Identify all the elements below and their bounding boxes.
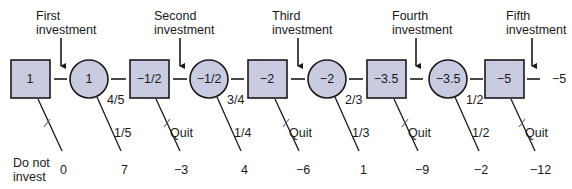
decision-node: −3.5 [367,60,406,98]
svg-text:investment: investment [392,23,453,37]
svg-text:invest: invest [13,170,46,184]
svg-text:−1/2: −1/2 [137,72,162,86]
decision-node: 1 [11,60,50,98]
svg-text:Third: Third [272,9,301,23]
svg-text:−2: −2 [320,72,334,86]
decision-branch-labels: Do not invest Quit Quit Quit Quit [13,126,548,184]
svg-text:1/3: 1/3 [352,126,369,140]
svg-text:0: 0 [60,163,67,177]
decision-tree-diagram: First investment Second investment Third… [0,0,572,189]
chance-branches [97,97,479,151]
svg-text:investment: investment [36,23,97,37]
svg-text:−2: −2 [260,72,274,86]
svg-text:investment: investment [272,23,333,37]
svg-text:1: 1 [360,163,367,177]
svg-text:2/3: 2/3 [345,93,362,107]
svg-text:Do not: Do not [13,156,50,170]
svg-text:−5: −5 [497,72,511,86]
svg-text:7: 7 [121,163,128,177]
decision-node: −2 [248,60,287,98]
chance-node: −3.5 [429,60,467,98]
final-payoff: −5 [552,72,566,86]
svg-text:investment: investment [506,23,567,37]
svg-text:−6: −6 [296,163,310,177]
investment-label-second: Second investment [154,9,215,66]
investment-label-first: First investment [36,9,97,66]
svg-text:First: First [36,9,61,23]
chance-node: 1 [70,60,108,98]
svg-text:−3: −3 [174,163,188,177]
svg-text:3/4: 3/4 [227,93,244,107]
svg-text:−12: −12 [530,163,551,177]
svg-text:Quit: Quit [408,126,431,140]
decision-node: −1/2 [130,60,169,98]
svg-text:1/2: 1/2 [466,93,483,107]
svg-text:Quit: Quit [289,126,312,140]
svg-text:investment: investment [154,23,215,37]
investment-label-fifth: Fifth investment [506,9,567,66]
svg-text:4/5: 4/5 [107,93,124,107]
svg-text:Fourth: Fourth [392,9,428,23]
svg-text:−3.5: −3.5 [436,72,461,86]
chance-node: −2 [308,60,346,98]
svg-text:Quit: Quit [525,126,548,140]
chance-node: −1/2 [190,60,228,98]
svg-text:Second: Second [154,9,196,23]
svg-text:1: 1 [27,72,34,86]
decision-node: −5 [485,60,524,98]
svg-text:1: 1 [86,72,93,86]
investment-label-fourth: Fourth investment [392,9,453,66]
svg-text:4: 4 [241,163,248,177]
svg-text:−1/2: −1/2 [197,72,222,86]
investment-label-third: Third investment [272,9,333,66]
svg-text:Quit: Quit [170,126,193,140]
svg-text:−9: −9 [415,163,429,177]
svg-text:1/2: 1/2 [472,126,489,140]
svg-text:1/5: 1/5 [114,126,131,140]
svg-text:Fifth: Fifth [506,9,530,23]
svg-text:−3.5: −3.5 [374,72,399,86]
svg-text:1/4: 1/4 [234,126,251,140]
svg-text:−2: −2 [474,163,488,177]
